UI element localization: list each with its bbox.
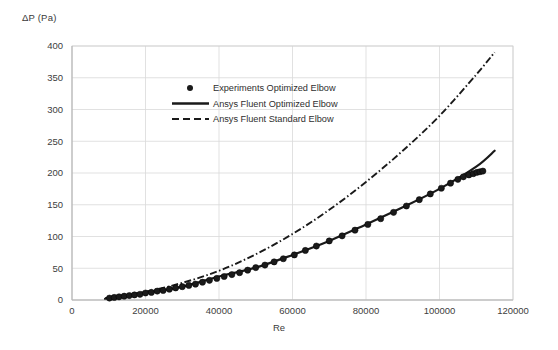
svg-text:150: 150	[47, 199, 63, 210]
legend-item-label: Ansys Fluent Optimized Elbow	[213, 99, 338, 109]
svg-text:350: 350	[47, 72, 63, 83]
svg-text:60000: 60000	[279, 305, 305, 316]
svg-text:100: 100	[47, 231, 63, 242]
svg-text:200: 200	[47, 167, 63, 178]
y-tick-labels: 050100150200250300350400	[47, 40, 63, 305]
svg-text:80000: 80000	[353, 305, 379, 316]
svg-text:400: 400	[47, 40, 63, 51]
svg-text:20000: 20000	[132, 305, 158, 316]
svg-text:120000: 120000	[497, 305, 529, 316]
svg-text:40000: 40000	[206, 305, 232, 316]
chart-page: ΔP (Pa) Re 050100150200250300350400 0200…	[0, 0, 558, 350]
series-experiments-optimized-elbow	[106, 168, 486, 301]
svg-text:0: 0	[58, 294, 63, 305]
svg-text:250: 250	[47, 136, 63, 147]
legend-item-label: Ansys Fluent Standard Elbow	[213, 114, 334, 124]
chart-plot: 050100150200250300350400 020000400006000…	[0, 0, 558, 350]
x-tick-labels: 020000400006000080000100000120000	[69, 305, 529, 316]
legend-item-label: Experiments Optimized Elbow	[213, 83, 336, 93]
svg-text:50: 50	[52, 263, 63, 274]
svg-text:300: 300	[47, 104, 63, 115]
svg-text:0: 0	[69, 305, 74, 316]
chart-legend: Experiments Optimized ElbowAnsys Fluent …	[172, 83, 338, 124]
svg-text:100000: 100000	[424, 305, 456, 316]
